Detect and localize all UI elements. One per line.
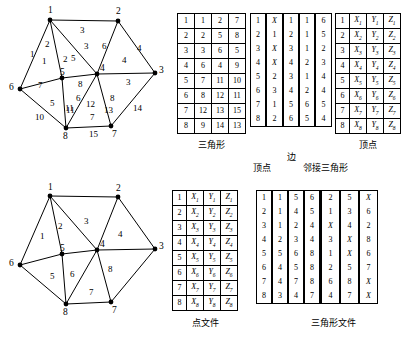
table-row: 3X3Y3Z3 bbox=[173, 221, 238, 236]
table-cell: 8 bbox=[229, 29, 246, 44]
table-cell: X bbox=[359, 275, 378, 289]
table-cell: 8 bbox=[195, 89, 212, 104]
table-row: 2145 bbox=[257, 205, 320, 219]
table-cell: 2 bbox=[212, 14, 229, 29]
triangle-table: 1127225833654649571110681211712131589141… bbox=[177, 13, 246, 134]
table-cell: 5 bbox=[336, 74, 350, 89]
table-cell: 3 bbox=[173, 221, 187, 236]
table-cell: 1 bbox=[299, 14, 315, 29]
table-cell: 3 bbox=[266, 84, 283, 98]
table-cell: 12 bbox=[195, 104, 212, 119]
table-cell: 3 bbox=[283, 70, 299, 84]
table-cell: 4 bbox=[251, 56, 267, 70]
table-cell: 4 bbox=[288, 205, 304, 219]
table-cell: 4 bbox=[272, 275, 288, 289]
table-row: 571110 bbox=[178, 74, 246, 89]
table-cell: 6 bbox=[257, 261, 273, 275]
table-cell: Z7 bbox=[384, 104, 401, 119]
table-cell: 3 bbox=[283, 42, 299, 56]
table-cell: Z8 bbox=[384, 119, 401, 134]
table-cell: X bbox=[266, 42, 283, 56]
graph-vertex bbox=[64, 302, 69, 307]
table-cell: X4 bbox=[350, 59, 367, 74]
table-cell: 8 bbox=[359, 233, 378, 247]
table-cell: 4 bbox=[336, 59, 350, 74]
table-cell: 8 bbox=[257, 289, 273, 304]
table-cell: 1 bbox=[336, 14, 350, 29]
table-cell: Y7 bbox=[367, 104, 384, 119]
graph-vertex bbox=[116, 195, 121, 200]
graph-edge bbox=[97, 249, 155, 250]
table-cell: 11 bbox=[229, 89, 246, 104]
face-label: 6 bbox=[70, 270, 75, 279]
table-cell: 5 bbox=[340, 191, 359, 206]
graph-edge bbox=[20, 196, 50, 265]
table-cell: 5 bbox=[315, 98, 332, 112]
table-cell: 6 bbox=[288, 247, 304, 261]
table-cell: X bbox=[359, 289, 378, 304]
table-row: 4234 bbox=[257, 233, 320, 247]
table-row: 1156 bbox=[257, 191, 320, 206]
table-cell: 5 bbox=[251, 70, 267, 84]
table-cell: Y6 bbox=[204, 266, 221, 281]
table-cell: Z8 bbox=[221, 296, 238, 311]
table-cell: 7 bbox=[251, 98, 267, 112]
table-row: 5568 bbox=[257, 247, 320, 261]
table-cell: Z6 bbox=[384, 89, 401, 104]
table-cell: 3 bbox=[315, 56, 332, 70]
table-cell: Z1 bbox=[221, 191, 238, 206]
triangle-file-right-table: 25X136X423X81X625768X47X bbox=[320, 190, 378, 304]
graph-edge bbox=[50, 196, 118, 197]
table-row: 136 bbox=[321, 205, 378, 219]
table-cell: 7 bbox=[288, 275, 304, 289]
table-cell: 9 bbox=[195, 119, 212, 134]
table-row: 68X bbox=[321, 275, 378, 289]
table-row: 25X bbox=[321, 191, 378, 206]
table-row: 7X7Y7Z7 bbox=[173, 281, 238, 296]
table-cell: 8 bbox=[336, 119, 350, 134]
table-row: 7121315 bbox=[178, 104, 246, 119]
table-cell: 13 bbox=[212, 104, 229, 119]
table-row: 2X2Y2Z2 bbox=[336, 29, 401, 44]
table-cell: X bbox=[321, 219, 340, 233]
table-cell: X8 bbox=[350, 119, 367, 134]
table-cell: 5 bbox=[304, 205, 320, 219]
table-cell: X5 bbox=[350, 74, 367, 89]
table-cell: Y8 bbox=[204, 296, 221, 311]
table-cell: 1 bbox=[272, 205, 288, 219]
table-cell: 8 bbox=[173, 296, 187, 311]
table-cell: 7 bbox=[257, 275, 273, 289]
table-cell: Z2 bbox=[221, 206, 238, 221]
table-cell: 5 bbox=[272, 247, 288, 261]
table-cell: X bbox=[359, 191, 378, 206]
table-cell: X bbox=[266, 56, 283, 70]
table-cell: 2 bbox=[266, 112, 283, 127]
table-cell: 2 bbox=[178, 29, 195, 44]
graph-edge bbox=[20, 254, 62, 265]
table-cell: 6 bbox=[359, 205, 378, 219]
table-cell: X1 bbox=[350, 14, 367, 29]
face-label: 2 bbox=[58, 222, 63, 231]
table-cell: Z2 bbox=[384, 29, 401, 44]
vertex-table: 1X1Y1Z12X2Y2Z23X3Y3Z34X4Y4Z45X5Y5Z56X6Y6… bbox=[335, 13, 401, 134]
table-cell: 11 bbox=[212, 74, 229, 89]
table-cell: 4 bbox=[340, 219, 359, 233]
table-cell: 2 bbox=[283, 28, 299, 42]
table-cell: 4 bbox=[315, 112, 332, 127]
table-cell: X bbox=[266, 14, 283, 29]
table-cell: 2 bbox=[288, 219, 304, 233]
table-cell: 9 bbox=[229, 59, 246, 74]
table-row: 891413 bbox=[178, 119, 246, 134]
table-cell: Y7 bbox=[204, 281, 221, 296]
table-cell: Z3 bbox=[221, 221, 238, 236]
table-row: 681211 bbox=[178, 89, 246, 104]
table-row: 7X7Y7Z7 bbox=[336, 104, 401, 119]
table-row: 8X8Y8Z8 bbox=[336, 119, 401, 134]
table-cell: 4 bbox=[283, 84, 299, 98]
table-row: 52314 bbox=[251, 70, 332, 84]
point-file-caption: 点文件 bbox=[172, 318, 238, 328]
table-cell: 1 bbox=[178, 14, 195, 29]
table-cell: 5 bbox=[315, 28, 332, 42]
point-file-table: 1X1Y1Z12X2Y2Z23X3Y3Z34X4Y4Z45X5Y5Z56X6Y6… bbox=[172, 190, 238, 311]
table-cell: 3 bbox=[321, 233, 340, 247]
